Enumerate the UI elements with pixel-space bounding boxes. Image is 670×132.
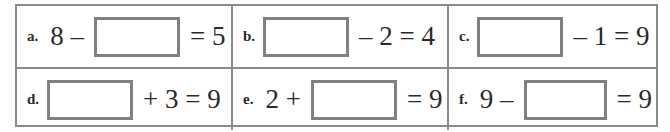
answer-box[interactable] xyxy=(94,17,180,57)
answer-box[interactable] xyxy=(47,80,133,120)
answer-box[interactable] xyxy=(524,80,607,120)
expression-before: 2 + xyxy=(265,84,300,115)
worksheet-row-2: d. + 3 = 9 e. 2 + = 9 f. 9 – = 9 xyxy=(17,67,656,130)
expression-before: 9 – xyxy=(480,84,514,115)
problem-label: b. xyxy=(243,28,255,45)
worksheet-table: a. 8 – = 5 b. – 2 = 4 c. – 1 = 9 d. + 3 … xyxy=(15,4,658,127)
expression-after: – 2 = 4 xyxy=(359,21,435,52)
expression-before: 8 – xyxy=(50,21,84,52)
expression-after: + 3 = 9 xyxy=(143,84,221,115)
problem-b: b. – 2 = 4 xyxy=(231,6,447,67)
expression-after: = 9 xyxy=(617,84,652,115)
expression-after: = 9 xyxy=(407,84,442,115)
problem-label: c. xyxy=(459,28,469,45)
answer-box[interactable] xyxy=(263,17,349,57)
problem-c: c. – 1 = 9 xyxy=(447,6,656,67)
problem-d: d. + 3 = 9 xyxy=(17,69,231,130)
answer-box[interactable] xyxy=(311,80,397,120)
problem-a: a. 8 – = 5 xyxy=(17,6,231,67)
problem-label: f. xyxy=(459,91,468,108)
expression-after: – 1 = 9 xyxy=(573,21,649,52)
problem-e: e. 2 + = 9 xyxy=(231,69,447,130)
problem-f: f. 9 – = 9 xyxy=(447,69,656,130)
answer-box[interactable] xyxy=(477,17,563,57)
problem-label: a. xyxy=(27,28,38,45)
expression-after: = 5 xyxy=(190,21,225,52)
problem-label: e. xyxy=(243,91,253,108)
worksheet-row-1: a. 8 – = 5 b. – 2 = 4 c. – 1 = 9 xyxy=(17,6,656,67)
problem-label: d. xyxy=(27,91,39,108)
